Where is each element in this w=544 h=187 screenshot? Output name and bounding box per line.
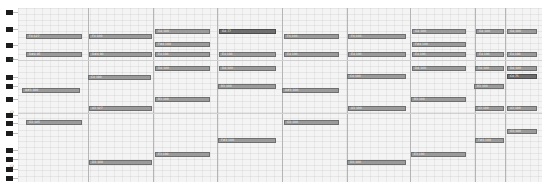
midi-note[interactable]: A3 100 xyxy=(348,106,406,111)
midi-note[interactable]: G3 100 xyxy=(284,120,339,125)
midi-note[interactable]: D#4 90 xyxy=(89,52,152,57)
note-label: E4 100 xyxy=(287,52,297,56)
note-label: D4 100 xyxy=(158,66,169,70)
midi-note[interactable]: F4 100 xyxy=(348,34,406,39)
midi-note[interactable]: D4 100 xyxy=(412,66,466,71)
note-label: D3 100 xyxy=(350,160,361,164)
midi-note[interactable]: G4 100 xyxy=(412,29,466,34)
midi-note[interactable]: B3 100 xyxy=(218,84,276,89)
note-label: F4 100 xyxy=(287,34,297,38)
note-label: A3 100 xyxy=(478,106,489,110)
midi-note[interactable]: E4 100 xyxy=(412,52,466,57)
midi-note[interactable]: E4 100 xyxy=(476,52,504,57)
note-label: E4 100 xyxy=(351,52,361,56)
midi-note[interactable]: D#4 95 xyxy=(26,52,82,57)
midi-note[interactable]: D3 100 xyxy=(347,160,406,165)
midi-note[interactable]: C4 75 xyxy=(507,74,537,79)
midi-note[interactable]: A3 100 xyxy=(507,106,537,111)
note-label: E4 100 xyxy=(479,52,489,56)
midi-note[interactable]: D4 100 xyxy=(507,66,537,71)
note-label: D#4 90 xyxy=(92,52,104,56)
midi-note[interactable]: E3 100 xyxy=(155,152,210,157)
note-label: B3 100 xyxy=(477,84,488,88)
midi-note[interactable]: G4 100 xyxy=(507,29,537,34)
note-label: D3 100 xyxy=(92,160,103,164)
note-label: A3 100 xyxy=(510,106,521,110)
midi-note[interactable]: G3 100 xyxy=(507,129,537,134)
black-key[interactable] xyxy=(6,43,13,48)
note-label: F4 100 xyxy=(92,34,102,38)
octave-label: C4 xyxy=(10,57,14,61)
note-label: E4 100 xyxy=(222,52,232,56)
midi-note[interactable]: A#3 100 xyxy=(22,88,80,93)
midi-note[interactable]: D3 100 xyxy=(89,160,152,165)
midi-note[interactable]: G3 105 xyxy=(26,120,82,125)
note-label: A3 127 xyxy=(92,106,103,110)
bar-line xyxy=(282,8,283,182)
midi-note[interactable]: G4 77 xyxy=(219,29,276,34)
black-key[interactable] xyxy=(6,131,13,136)
black-key[interactable] xyxy=(6,27,13,32)
midi-note[interactable]: B3 100 xyxy=(411,97,466,102)
midi-note[interactable]: G4 100 xyxy=(155,29,210,34)
note-label: D4 100 xyxy=(222,66,233,70)
midi-note[interactable]: A3 100 xyxy=(475,106,504,111)
midi-note[interactable]: F4 100 xyxy=(89,34,152,39)
note-label: F4 127 xyxy=(29,34,39,38)
midi-note[interactable]: E4 100 xyxy=(219,52,276,57)
black-key[interactable] xyxy=(6,84,13,89)
note-label: C4 100 xyxy=(91,75,102,79)
midi-note[interactable]: E4 100 xyxy=(348,52,406,57)
note-label: E4 100 xyxy=(158,52,168,56)
bar-line xyxy=(153,8,154,182)
note-label: B3 100 xyxy=(221,84,232,88)
midi-note[interactable]: F#4 100 xyxy=(155,42,210,47)
note-label: D4 100 xyxy=(478,66,489,70)
midi-note[interactable]: F4 127 xyxy=(26,34,82,39)
piano-keyboard[interactable]: C4C3C2 xyxy=(0,8,18,182)
midi-note[interactable]: E4 100 xyxy=(155,52,210,57)
note-label: F#3 100 xyxy=(478,138,491,142)
black-key[interactable] xyxy=(6,148,13,153)
midi-note[interactable]: B3 100 xyxy=(155,97,210,102)
black-key[interactable] xyxy=(6,121,13,126)
note-label: G4 100 xyxy=(158,29,169,33)
black-key[interactable] xyxy=(6,75,13,80)
note-label: G4 100 xyxy=(510,29,521,33)
midi-note[interactable]: C4 100 xyxy=(88,75,151,80)
midi-note[interactable]: F#3 100 xyxy=(475,138,504,143)
note-label: C4 75 xyxy=(510,74,519,78)
note-label: G3 105 xyxy=(29,120,40,124)
note-label: G3 100 xyxy=(510,129,521,133)
midi-note[interactable]: F#3 100 xyxy=(218,138,276,143)
octave-label: C2 xyxy=(10,164,14,168)
note-label: D4 100 xyxy=(510,66,521,70)
note-label: E4 100 xyxy=(415,52,425,56)
bar-line xyxy=(217,8,218,182)
octave-line xyxy=(18,60,542,61)
midi-note[interactable]: D4 100 xyxy=(475,66,504,71)
midi-note[interactable]: A#3 100 xyxy=(282,88,339,93)
midi-note[interactable]: F#4 100 xyxy=(412,42,466,47)
midi-note[interactable]: C4 100 xyxy=(347,74,406,79)
midi-note[interactable]: F4 100 xyxy=(284,34,339,39)
midi-note[interactable]: E4 100 xyxy=(284,52,339,57)
black-key[interactable] xyxy=(6,97,13,102)
note-label: B3 100 xyxy=(414,97,425,101)
midi-note[interactable]: D4 100 xyxy=(219,66,276,71)
note-label: E3 100 xyxy=(158,152,168,156)
midi-note[interactable]: G4 100 xyxy=(476,29,504,34)
midi-note[interactable]: E4 100 xyxy=(507,52,537,57)
black-key[interactable] xyxy=(6,176,13,181)
midi-note[interactable]: A3 127 xyxy=(89,106,152,111)
black-key[interactable] xyxy=(6,157,13,162)
note-label: D#4 95 xyxy=(29,52,41,56)
midi-note[interactable]: E3 100 xyxy=(411,152,466,157)
note-label: G4 100 xyxy=(415,29,426,33)
bar-line xyxy=(505,8,506,182)
note-label: F#4 100 xyxy=(415,42,428,46)
black-key[interactable] xyxy=(6,10,13,15)
midi-note[interactable]: D4 100 xyxy=(155,66,210,71)
note-label: A3 100 xyxy=(351,106,362,110)
midi-note[interactable]: B3 100 xyxy=(474,84,504,89)
